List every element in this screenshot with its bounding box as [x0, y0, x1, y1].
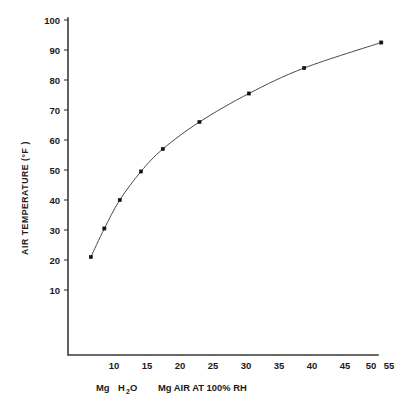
y-tick-label: 60	[49, 135, 60, 146]
chart-figure: AIR TEMPERATURE (°F ) 100 90 80 70 60 50…	[0, 0, 396, 406]
x-tick-label: 10	[109, 360, 120, 371]
x-tick-label: 30	[241, 360, 252, 371]
y-tick-label: 70	[49, 105, 60, 116]
data-marker-group	[89, 41, 383, 259]
y-tick-labels: 100 90 80 70 60 50 40 30 20 10	[44, 15, 60, 296]
x-tick-label: 20	[175, 360, 186, 371]
y-tick-label: 100	[44, 15, 60, 26]
y-tick-label: 10	[49, 285, 60, 296]
data-point-marker	[89, 255, 92, 258]
x-axis-label-denominator: Mg AIR AT 100% RH	[158, 382, 247, 393]
x-axis-label-numerator-suffix: O	[130, 382, 137, 393]
data-point-marker	[198, 120, 201, 123]
y-tick-label: 40	[49, 195, 60, 206]
x-axis-label: Mg H 2 O Mg AIR AT 100% RH	[96, 382, 247, 395]
y-tick-label: 50	[49, 165, 60, 176]
x-tick-label: 15	[142, 360, 153, 371]
data-point-marker	[247, 92, 250, 95]
x-tick-label: 55	[384, 360, 395, 371]
data-point-marker	[139, 170, 142, 173]
data-point-marker	[303, 66, 306, 69]
data-point-marker	[380, 41, 383, 44]
y-axis-label: AIR TEMPERATURE (°F )	[20, 141, 30, 255]
x-axis-label-numerator-main: H	[118, 382, 125, 393]
x-axis-label-numerator-prefix: Mg	[96, 382, 110, 393]
x-tick-label: 25	[208, 360, 219, 371]
y-tick-label: 90	[49, 45, 60, 56]
y-tick-label: 30	[49, 225, 60, 236]
x-tick-label: 40	[307, 360, 318, 371]
x-tick-label: 50	[366, 360, 377, 371]
data-point-marker	[103, 227, 106, 230]
y-axis-label-text: AIR TEMPERATURE (°F )	[20, 141, 30, 255]
x-tick-labels: 10 15 20 25 30 35 40 45 50 55	[109, 360, 395, 371]
data-point-marker	[118, 198, 121, 201]
axis-lines	[68, 18, 378, 355]
x-tick-label: 45	[340, 360, 351, 371]
y-tick-label: 20	[49, 255, 60, 266]
data-point-marker	[161, 147, 164, 150]
data-curve	[91, 43, 381, 258]
y-tick-label: 80	[49, 75, 60, 86]
x-tick-label: 35	[274, 360, 285, 371]
line-chart: AIR TEMPERATURE (°F ) 100 90 80 70 60 50…	[0, 0, 396, 406]
